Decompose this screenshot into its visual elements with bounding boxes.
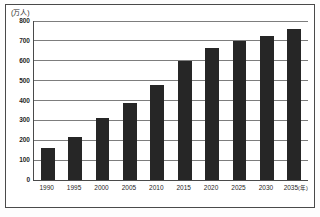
bar-slot xyxy=(253,21,280,180)
y-tick-label-100: 100 xyxy=(19,157,30,164)
x-tick-label-2000: 2000 xyxy=(94,184,108,191)
bar-slot xyxy=(89,21,116,180)
bar-2030 xyxy=(260,36,274,180)
x-tick-label-2035: 2035(年) xyxy=(284,184,308,192)
bar-slot xyxy=(116,21,143,180)
y-tick-label-0: 0 xyxy=(26,177,30,184)
y-tick-label-300: 300 xyxy=(19,117,30,124)
bar-2025 xyxy=(233,41,247,180)
y-tick-label-500: 500 xyxy=(19,77,30,84)
bar-2005 xyxy=(123,103,137,180)
bar-2035 xyxy=(287,29,301,180)
bar-slot xyxy=(198,21,225,180)
x-tick-label-2025: 2025 xyxy=(231,184,245,191)
x-tick-label-1990: 1990 xyxy=(39,184,53,191)
y-axis-tick-labels: 0100200300400500600700800 xyxy=(6,21,30,181)
bar-2020 xyxy=(205,48,219,180)
bar-1990 xyxy=(41,148,55,180)
bar-1995 xyxy=(68,137,82,180)
x-tick-label-2010: 2010 xyxy=(149,184,163,191)
y-tick-label-700: 700 xyxy=(19,38,30,45)
bar-slot xyxy=(171,21,198,180)
x-tick-label-2030: 2030 xyxy=(259,184,273,191)
bar-slot xyxy=(34,21,61,180)
plot-area xyxy=(33,21,308,181)
x-tick-label-1995: 1995 xyxy=(67,184,81,191)
y-axis-unit-label: (万人) xyxy=(11,7,30,17)
y-tick-label-600: 600 xyxy=(19,58,30,65)
x-axis-tick-labels: 1990199520002005201020152020202520302035… xyxy=(33,184,308,200)
bar-slot xyxy=(281,21,308,180)
bar-2000 xyxy=(96,118,110,180)
y-tick-label-400: 400 xyxy=(19,97,30,104)
x-tick-label-2015: 2015 xyxy=(176,184,190,191)
bar-series xyxy=(34,21,308,180)
y-tick-label-800: 800 xyxy=(19,18,30,25)
bar-slot xyxy=(144,21,171,180)
bar-slot xyxy=(61,21,88,180)
x-tick-label-2020: 2020 xyxy=(204,184,218,191)
y-tick-label-200: 200 xyxy=(19,137,30,144)
x-tick-label-2005: 2005 xyxy=(122,184,136,191)
bar-slot xyxy=(226,21,253,180)
bar-2010 xyxy=(150,85,164,180)
bar-2015 xyxy=(178,61,192,180)
bar-chart-figure: (万人) 0100200300400500600700800 199019952… xyxy=(0,0,320,217)
